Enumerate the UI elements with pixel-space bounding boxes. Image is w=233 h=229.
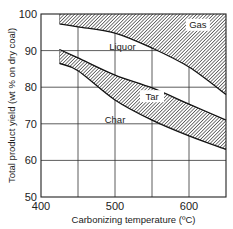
x-tick-label: 500: [106, 200, 124, 212]
yield-chart: 5060708090100400500600 CharTarLiquorGas …: [0, 0, 233, 229]
region-label-tar: Tar: [145, 91, 158, 102]
x-axis-label: Carbonizing temperature (ºC): [72, 214, 196, 225]
y-axis-label: Total product yield (wt % on dry coal): [6, 28, 17, 183]
x-tick-label: 600: [180, 200, 198, 212]
y-tick-label: 60: [25, 154, 37, 166]
region-label-char: Char: [105, 114, 126, 125]
regions: [60, 14, 227, 149]
y-tick-label: 80: [25, 81, 37, 93]
y-tick-label: 90: [25, 45, 37, 57]
y-tick-label: 100: [19, 8, 37, 20]
region-label-liquor: Liquor: [109, 41, 135, 52]
region-label-gas: Gas: [189, 19, 207, 30]
y-tick-label: 70: [25, 118, 37, 130]
x-tick-label: 400: [32, 200, 50, 212]
